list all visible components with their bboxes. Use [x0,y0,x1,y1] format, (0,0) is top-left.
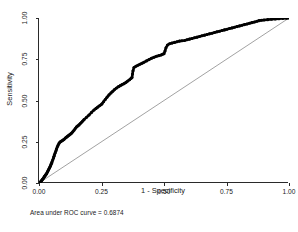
roc-data-point [131,73,134,76]
y-tick-mark [36,59,39,60]
roc-data-point [266,18,269,21]
y-tick-label: 0.50 [15,96,35,106]
roc-plot-canvas [39,18,289,183]
y-tick-mark [36,101,39,102]
reference-diagonal-line [39,18,289,183]
auc-caption: Area under ROC curve = 0.6874 [30,208,124,217]
roc-curve-figure: 0.000.250.500.751.00 0.000.250.500.751.0… [0,0,298,232]
roc-data-point [130,76,133,79]
y-tick-label: 0.00 [15,178,35,188]
y-tick-label: 0.25 [15,137,35,147]
y-tick-mark [36,183,39,184]
roc-data-point [85,116,88,119]
roc-data-point [262,18,265,21]
roc-data-point [82,118,85,121]
roc-data-point [90,111,93,114]
y-axis-title: Sensitivity [5,57,15,121]
y-tick-label: 1.00 [15,13,35,23]
roc-data-point [164,46,167,49]
y-tick-label: 0.75 [15,54,35,64]
roc-data-point [87,113,90,116]
x-tick-mark [289,183,290,186]
roc-data-point [162,52,165,55]
x-axis-title: 1 - Specificity [38,186,288,196]
plot-area: 0.000.250.500.751.00 0.000.250.500.751.0… [38,18,288,183]
y-tick-mark [36,18,39,19]
roc-data-point [131,69,134,72]
roc-data-point [163,49,166,52]
y-tick-mark [36,142,39,143]
